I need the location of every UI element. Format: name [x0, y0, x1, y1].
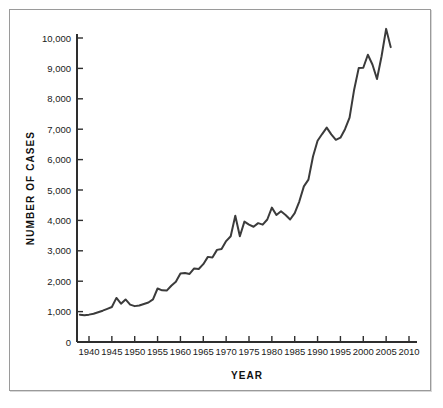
y-tick-label: 9,000: [47, 63, 71, 74]
x-tick-label: 1965: [193, 346, 214, 357]
chart-container: 01,0002,0003,0004,0005,0006,0007,0008,00…: [0, 0, 443, 408]
y-tick-label: 3,000: [47, 245, 71, 256]
y-tick-label: 7,000: [47, 124, 71, 135]
x-tick-label: 1955: [147, 346, 168, 357]
y-tick-label: 4,000: [47, 215, 71, 226]
x-tick-label: 1970: [216, 346, 237, 357]
x-axis-ticks: 1940194519501955196019651970197519801985…: [78, 336, 419, 357]
x-axis-title: YEAR: [231, 370, 263, 381]
x-tick-label: 2010: [398, 346, 419, 357]
x-tick-label: 1945: [101, 346, 122, 357]
y-tick-label: 2,000: [47, 276, 71, 287]
y-tick-label: 10,000: [42, 33, 71, 44]
y-tick-label: 6,000: [47, 154, 71, 165]
line-chart-svg: 01,0002,0003,0004,0005,0006,0007,0008,00…: [0, 0, 443, 408]
x-tick-label: 1940: [78, 346, 99, 357]
y-tick-label: 1,000: [47, 306, 71, 317]
x-tick-label: 1950: [124, 346, 145, 357]
y-axis-title: NUMBER OF CASES: [25, 131, 36, 245]
x-tick-label: 2005: [376, 346, 397, 357]
y-tick-label: 8,000: [47, 93, 71, 104]
y-tick-label: 0: [66, 337, 71, 348]
data-series-line: [80, 29, 391, 315]
x-tick-label: 1960: [170, 346, 191, 357]
x-tick-label: 1990: [307, 346, 328, 357]
x-tick-label: 1985: [284, 346, 305, 357]
x-tick-label: 2000: [353, 346, 374, 357]
y-tick-label: 5,000: [47, 185, 71, 196]
x-tick-label: 1995: [330, 346, 351, 357]
x-tick-label: 1980: [261, 346, 282, 357]
x-tick-label: 1975: [238, 346, 259, 357]
